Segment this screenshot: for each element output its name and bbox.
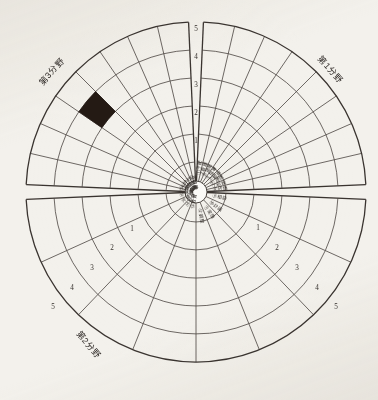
radial-grid-line xyxy=(26,192,185,199)
axis-tick-label: 3 xyxy=(90,264,94,272)
radial-grid-line xyxy=(30,153,185,189)
axis-tick-label: 2 xyxy=(194,109,198,117)
radial-grid-line xyxy=(204,200,314,315)
radial-grid-line xyxy=(26,185,185,192)
radial-grid-line xyxy=(128,36,192,182)
radial-grid-line xyxy=(206,197,351,263)
axis-tick-label: 1 xyxy=(130,225,134,233)
polar-chart-root: ①予防②看護③援助④指導⑤観察⑥連携⑦記録⑧評価⑨相談⑩計画⑪実施⑫調整⑬教育⑭… xyxy=(0,0,378,400)
radial-grid-line xyxy=(200,202,259,350)
axis-tick-label: 3 xyxy=(295,264,299,272)
radial-grid-line xyxy=(56,96,187,186)
radial-grid-line xyxy=(205,96,336,186)
radial-grid-line xyxy=(76,72,188,184)
highlighted-cell-layer xyxy=(79,92,116,128)
radial-grid-line xyxy=(206,124,352,188)
radial-grid-line xyxy=(200,36,264,182)
radial-grid-line xyxy=(40,124,186,188)
radial-grid-line xyxy=(157,26,193,181)
axis-tick-label: 4 xyxy=(70,284,74,292)
radial-grid-line xyxy=(189,22,196,181)
radial-grid-line xyxy=(207,185,366,192)
axis-tick-label: 4 xyxy=(315,284,319,292)
axis-tick-label: 2 xyxy=(275,244,279,252)
radial-grid-line xyxy=(196,22,203,181)
axis-tick-label: 5 xyxy=(51,303,55,311)
axis-tick-label: 1 xyxy=(194,137,198,145)
radial-grid-line xyxy=(207,192,366,199)
highlighted-cell xyxy=(79,92,116,128)
field-label: 第2分野 xyxy=(74,328,104,361)
radial-grid-line xyxy=(133,202,192,350)
polar-chart-svg: ①予防②看護③援助④指導⑤観察⑥連携⑦記録⑧評価⑨相談⑩計画⑪実施⑫調整⑬教育⑭… xyxy=(0,0,378,400)
axis-tick-label: 1 xyxy=(256,224,260,232)
radial-grid-line xyxy=(41,197,186,263)
radial-grid-line xyxy=(199,26,235,181)
axis-tick-label: 5 xyxy=(194,25,198,33)
field-label: 第3分野 xyxy=(36,55,67,87)
radial-grid-line xyxy=(204,72,316,184)
radial-grid-line xyxy=(207,153,362,189)
axis-tick-label: 4 xyxy=(194,53,198,61)
field-label: 第1分野 xyxy=(316,53,347,85)
radial-grid-line xyxy=(202,52,292,183)
radial-grid-line xyxy=(78,200,188,315)
axis-tick-label: 5 xyxy=(334,303,338,311)
axis-tick-label: 2 xyxy=(110,244,114,252)
axis-tick-label: 3 xyxy=(194,81,198,89)
radial-grid-line xyxy=(100,52,190,183)
